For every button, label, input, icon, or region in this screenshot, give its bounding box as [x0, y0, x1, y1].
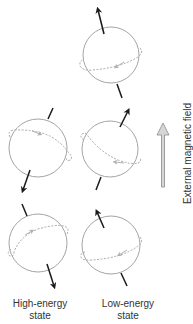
precession-orbit: [80, 48, 142, 70]
low-energy-label-line1: Low-energy: [88, 298, 168, 310]
high-energy-state-label: High-energy state: [0, 298, 80, 322]
high-energy-label-line2: state: [0, 310, 80, 322]
sphere-middle-high-energy: [9, 108, 72, 190]
sphere-outline: [82, 121, 138, 177]
precession-orbit: [81, 133, 141, 163]
sphere-bottom-low-energy: [81, 212, 142, 286]
spin-down-arrow-icon: [47, 264, 54, 286]
spin-up-arrow-icon: [98, 10, 104, 34]
spin-axis-tail: [117, 84, 122, 98]
nuclear-spin-diagram: [0, 0, 193, 324]
spin-axis-tail: [96, 177, 101, 190]
spin-axis-tail: [48, 108, 53, 119]
external-field-arrow-icon: [157, 123, 169, 187]
spin-axis-tail: [121, 273, 127, 286]
precession-direction-arrow-icon: [115, 162, 124, 163]
spin-up-arrow-icon: [97, 212, 104, 228]
spin-axis-tail: [22, 204, 27, 216]
sphere-top-low-energy: [80, 10, 142, 98]
high-energy-label-line1: High-energy: [0, 298, 80, 310]
precession-orbit: [8, 225, 68, 256]
low-energy-label-line2: state: [88, 310, 168, 322]
precession-direction-arrow-icon: [116, 62, 124, 67]
sphere-outline: [9, 214, 67, 272]
sphere-outline: [83, 27, 139, 83]
sphere-middle-low-energy: [81, 111, 141, 190]
low-energy-state-label: Low-energy state: [88, 298, 168, 322]
sphere-bottom-high-energy: [8, 204, 68, 286]
external-field-label: External magnetic field: [182, 95, 193, 213]
precession-orbit: [81, 237, 142, 260]
precession-orbit: [9, 130, 72, 161]
sphere-outline: [9, 119, 67, 177]
sphere-outline: [82, 216, 140, 274]
